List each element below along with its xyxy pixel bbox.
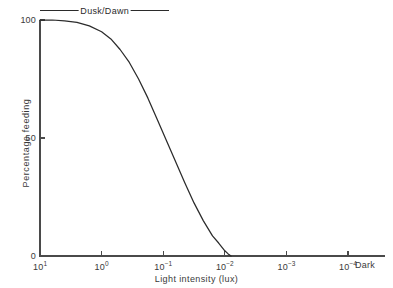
- x-tick-label: 10−2: [216, 260, 234, 272]
- x-tick-label: 10−1: [154, 260, 172, 272]
- feeding-curve-group: [40, 20, 231, 256]
- x-tick-label: 101: [33, 260, 47, 272]
- plot-canvas: [0, 0, 393, 288]
- axes-group: [40, 20, 385, 256]
- y-tick-label: 50: [0, 133, 36, 143]
- tick-marks-group: [40, 20, 348, 256]
- x-axis-title: Light intensity (lux): [0, 274, 393, 284]
- y-tick-label: 0: [0, 251, 36, 261]
- dusk-dawn-annotation-label: Dusk/Dawn: [78, 6, 131, 16]
- chart-container: Percentage feeding Light intensity (lux)…: [0, 0, 393, 288]
- x-tick-label: 10−3: [278, 260, 296, 272]
- x-tick-label: 10−4: [339, 260, 357, 272]
- x-tick-label: 100: [95, 260, 109, 272]
- y-axis-title: Percentage feeding: [21, 83, 31, 203]
- x-axis-dark-label: Dark: [355, 260, 375, 270]
- y-tick-label: 100: [0, 15, 36, 25]
